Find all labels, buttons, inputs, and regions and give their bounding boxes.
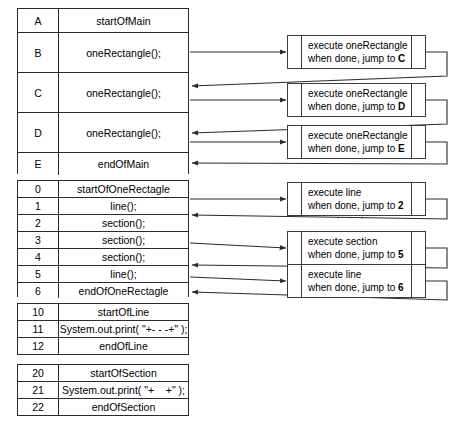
exec-box-entry-stub (288, 183, 302, 215)
row-label: 21 (18, 382, 59, 398)
exec-box-entry-stub (288, 84, 302, 116)
row-code: startOfLine (59, 304, 188, 320)
exec-jump-target: C (398, 53, 405, 64)
row-code: oneRectangle(); (59, 113, 188, 152)
exec-box-body: execute line when done, jump to 6 (302, 265, 411, 297)
exec-box-body: execute section when done, jump to 5 (302, 232, 411, 264)
row-code: System.out.print( "+ +" ); (59, 382, 188, 398)
row-code: section(); (59, 249, 188, 265)
row-label: 11 (18, 321, 59, 337)
control-flow-diagram: A startOfMain B oneRectangle(); C oneRec… (0, 0, 463, 424)
exec-jump-target: 2 (398, 200, 404, 211)
row-label: 5 (18, 266, 59, 282)
row-code: line(); (59, 266, 188, 282)
row-label: 22 (18, 399, 59, 415)
exec-box-entry-stub (288, 126, 302, 158)
table-row: 3 section(); (18, 232, 188, 249)
exec-jump-text: when done, jump to (308, 53, 398, 64)
row-code: startOfSection (59, 365, 188, 381)
exec-box-exit-stub (411, 84, 425, 116)
row-label: 6 (18, 283, 59, 298)
exec-box-entry-stub (288, 36, 302, 68)
row-code: startOfMain (59, 9, 188, 32)
table-row: E endOfMain (18, 153, 188, 175)
exec-box-one-rectangle-1: execute oneRectangle when done, jump to … (287, 35, 426, 69)
table-row: 12 endOfLine (18, 338, 188, 354)
exec-box-line-2: execute line when done, jump to 6 (287, 264, 426, 298)
row-label: C (18, 73, 59, 112)
exec-box-one-rectangle-3: execute oneRectangle when done, jump to … (287, 125, 426, 159)
row-label: 2 (18, 215, 59, 231)
row-label: 10 (18, 304, 59, 320)
ellipsis-indicator: · · · (336, 210, 366, 223)
exec-line-1: execute oneRectangle (308, 87, 408, 100)
exec-line-1: execute line (308, 268, 361, 281)
row-label: 12 (18, 338, 59, 354)
exec-line-1: execute oneRectangle (308, 39, 408, 52)
exec-box-section-1: execute section when done, jump to 5 (287, 231, 426, 265)
exec-line-2: when done, jump to E (308, 142, 405, 155)
row-label: 3 (18, 232, 59, 248)
row-code: System.out.print( "+- - -+" ); (59, 321, 188, 337)
row-label: 20 (18, 365, 59, 381)
exec-jump-target: 6 (398, 282, 404, 293)
table-row: 1 line(); (18, 198, 188, 215)
one-rectangle-method-table: 0 startOfOneRectagle 1 line(); 2 section… (17, 180, 189, 297)
exec-box-exit-stub (411, 232, 425, 264)
row-code: endOfSection (59, 399, 188, 415)
row-code: oneRectangle(); (59, 73, 188, 112)
exec-line-2: when done, jump to D (308, 100, 405, 113)
exec-jump-text: when done, jump to (308, 249, 398, 260)
exec-line-1: execute oneRectangle (308, 129, 408, 142)
table-row: 11 System.out.print( "+- - -+" ); (18, 321, 188, 338)
exec-line-1: execute section (308, 235, 378, 248)
row-code: endOfMain (59, 153, 188, 175)
exec-box-exit-stub (411, 36, 425, 68)
table-row: 6 endOfOneRectagle (18, 283, 188, 298)
exec-box-body: execute oneRectangle when done, jump to … (302, 126, 411, 158)
exec-box-body: execute oneRectangle when done, jump to … (302, 36, 411, 68)
table-row: 21 System.out.print( "+ +" ); (18, 382, 188, 399)
exec-jump-text: when done, jump to (308, 101, 398, 112)
exec-line-2: when done, jump to C (308, 52, 405, 65)
row-label: B (18, 33, 59, 72)
table-row: 2 section(); (18, 215, 188, 232)
table-row: 22 endOfSection (18, 399, 188, 415)
section-method-table: 20 startOfSection 21 System.out.print( "… (17, 364, 189, 416)
row-code: line(); (59, 198, 188, 214)
row-label: E (18, 153, 59, 175)
row-code: section(); (59, 215, 188, 231)
row-code: oneRectangle(); (59, 33, 188, 72)
table-row: 5 line(); (18, 266, 188, 283)
table-row: 20 startOfSection (18, 365, 188, 382)
exec-box-exit-stub (411, 183, 425, 215)
table-row: 4 section(); (18, 249, 188, 266)
exec-box-body: execute oneRectangle when done, jump to … (302, 84, 411, 116)
row-code: endOfOneRectagle (59, 283, 188, 298)
table-row: D oneRectangle(); (18, 113, 188, 153)
line-method-table: 10 startOfLine 11 System.out.print( "+- … (17, 303, 189, 355)
row-code: section(); (59, 232, 188, 248)
table-row: C oneRectangle(); (18, 73, 188, 113)
row-label: D (18, 113, 59, 152)
exec-jump-text: when done, jump to (308, 143, 398, 154)
exec-line-2: when done, jump to 5 (308, 248, 404, 261)
exec-jump-target: E (398, 143, 405, 154)
table-row: 10 startOfLine (18, 304, 188, 321)
row-label: 0 (18, 181, 59, 197)
table-row: 0 startOfOneRectagle (18, 181, 188, 198)
exec-box-entry-stub (288, 265, 302, 297)
table-row: B oneRectangle(); (18, 33, 188, 73)
row-code: startOfOneRectagle (59, 181, 188, 197)
row-label: 1 (18, 198, 59, 214)
exec-box-entry-stub (288, 232, 302, 264)
exec-jump-text: when done, jump to (308, 282, 398, 293)
exec-line-1: execute line (308, 186, 361, 199)
exec-jump-target: 5 (398, 249, 404, 260)
row-code: endOfLine (59, 338, 188, 354)
exec-jump-target: D (398, 101, 405, 112)
exec-line-2: when done, jump to 6 (308, 281, 404, 294)
main-method-table: A startOfMain B oneRectangle(); C oneRec… (17, 8, 189, 174)
row-label: A (18, 9, 59, 32)
exec-box-one-rectangle-2: execute oneRectangle when done, jump to … (287, 83, 426, 117)
